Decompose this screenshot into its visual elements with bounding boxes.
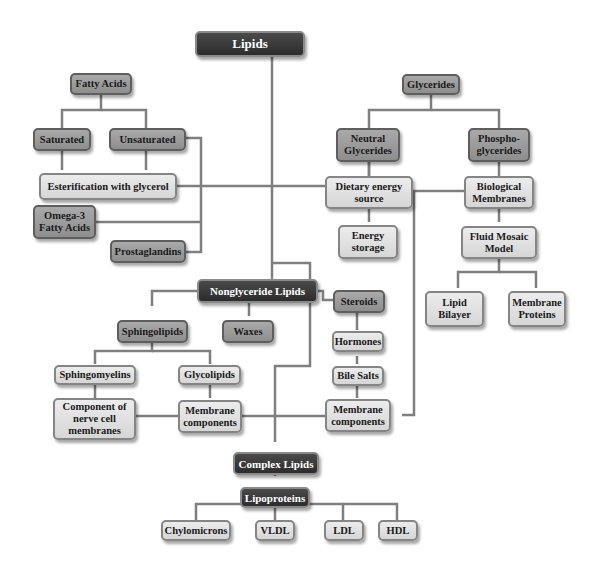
node-esterification: Esterification with glycerol [39,173,177,200]
node-fluid-mosaic-model: Fluid Mosaic Model [461,226,537,259]
node-unsaturated: Unsaturated [109,128,186,151]
node-omega3: Omega-3 Fatty Acids [33,205,96,239]
node-phosphoglycerides: Phospho- glycerides [468,128,530,162]
node-lipoproteins: Lipoproteins [240,487,310,508]
node-vldl: VLDL [255,520,295,541]
node-prostaglandins: Prostaglandins [110,240,186,263]
node-dietary-energy-source: Dietary energy source [325,176,413,209]
node-neutral-glycerides: Neutral Glycerides [336,128,400,162]
node-steroids: Steroids [333,290,385,313]
node-sphingolipids: Sphingolipids [117,320,188,343]
node-membrane-proteins: Membrane Proteins [508,291,566,327]
node-nonglyceride-lipids: Nonglyceride Lipids [197,279,318,303]
node-hormones: Hormones [332,331,384,352]
node-chylomicrons: Chylomicrons [161,520,231,541]
node-waxes: Waxes [222,320,274,343]
node-saturated: Saturated [33,128,91,151]
node-bile-salts: Bile Salts [332,366,384,386]
node-nerve-cell-component: Component of nerve cell membranes [53,398,136,440]
node-hdl: HDL [378,520,418,541]
node-complex-lipids: Complex Lipids [233,452,319,475]
node-ldl: LDL [324,520,364,541]
node-lipid-bilayer: Lipid Bilayer [425,291,484,327]
node-steroid-membrane-components: Membrane components [325,399,391,432]
node-glycerides: Glycerides [402,74,460,95]
node-glycolipid-membrane-components: Membrane components [178,400,242,433]
node-sphingomyelins: Sphingomyelins [54,365,136,385]
node-energy-storage: Energy storage [338,225,398,259]
node-glycolipids: Glycolipids [178,365,241,385]
node-lipids: Lipids [195,31,305,57]
node-fatty-acids: Fatty Acids [70,73,132,95]
node-biological-membranes: Biological Membranes [464,176,534,209]
lipids-concept-map: Lipids Fatty Acids Saturated Unsaturated… [0,0,599,570]
